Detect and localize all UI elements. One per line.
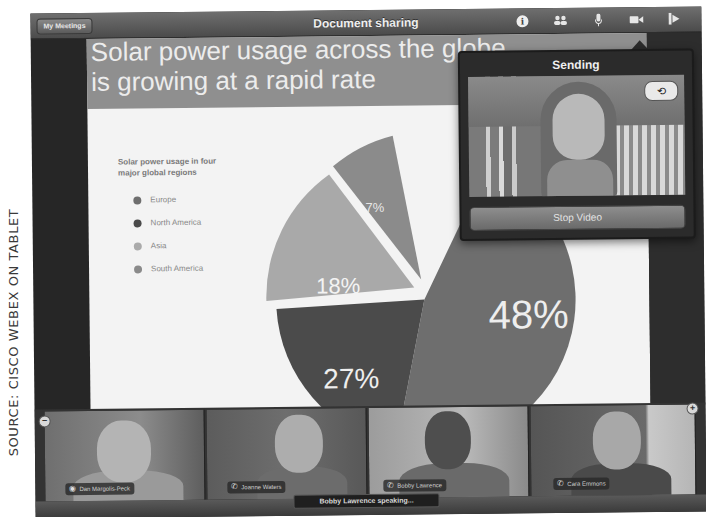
participant-name-label: ✆ Cara Emmons bbox=[553, 477, 609, 490]
microphone-icon bbox=[594, 13, 602, 28]
label-7: 7% bbox=[365, 200, 384, 215]
self-video-preview: ⟲ bbox=[468, 75, 685, 197]
source-caption: SOURCE: CISCO WEBEX ON TABLET bbox=[0, 150, 28, 515]
participant-video-1[interactable]: ◉ Dan Margolis-Peck bbox=[45, 410, 206, 502]
participant-video-2[interactable]: ✆ Joanne Waters bbox=[207, 408, 368, 500]
participant-name-label: ◉ Dan Margolis-Peck bbox=[65, 482, 134, 495]
popover-title: Sending bbox=[460, 57, 692, 75]
phone-icon: ✆ bbox=[231, 481, 238, 493]
phone-icon: ✆ bbox=[387, 480, 394, 492]
legend-dot-icon bbox=[133, 196, 141, 204]
expand-filmstrip-button[interactable]: + bbox=[686, 403, 698, 415]
participant-video-3[interactable]: ✆ Bobby Lawrence bbox=[369, 406, 530, 498]
participant-name-label: ✆ Bobby Lawrence bbox=[383, 479, 446, 492]
legend-dot-icon bbox=[134, 219, 142, 227]
leave-meeting-icon bbox=[668, 13, 680, 27]
switch-camera-icon: ⟲ bbox=[657, 84, 666, 97]
participants-button[interactable] bbox=[541, 12, 579, 30]
switch-camera-button[interactable]: ⟲ bbox=[644, 81, 678, 101]
label-48: 48% bbox=[488, 292, 569, 337]
info-icon: i bbox=[516, 15, 528, 27]
info-button[interactable]: i bbox=[503, 12, 541, 30]
mute-button[interactable] bbox=[579, 11, 617, 29]
stop-video-button[interactable]: Stop Video bbox=[469, 205, 685, 231]
participant-filmstrip: ◉ Dan Margolis-Peck ✆ Joanne Waters bbox=[35, 402, 706, 517]
minus-icon: − bbox=[42, 415, 47, 425]
photo: SOURCE: CISCO WEBEX ON TABLET My Meeting… bbox=[0, 0, 706, 517]
participant-video-4[interactable]: ✆ Cara Emmons bbox=[531, 405, 697, 497]
audio-icon: ◉ bbox=[69, 483, 76, 495]
collapse-filmstrip-button[interactable]: − bbox=[39, 415, 51, 427]
leave-meeting-button[interactable] bbox=[655, 11, 693, 29]
video-camera-icon bbox=[629, 14, 643, 26]
active-speaker-banner: Bobby Lawrence speaking... bbox=[293, 493, 439, 509]
toolbar-icons: i bbox=[503, 11, 693, 31]
plus-icon: + bbox=[690, 403, 695, 413]
self-video-popover: Sending ⟲ Stop Video bbox=[458, 49, 696, 241]
video-button[interactable] bbox=[617, 11, 655, 29]
label-27: 27% bbox=[323, 363, 379, 395]
participants-icon bbox=[553, 15, 567, 27]
legend-dot-icon bbox=[134, 242, 142, 250]
legend-dot-icon bbox=[134, 265, 142, 273]
participant-name-label: ✆ Joanne Waters bbox=[227, 481, 285, 494]
phone-icon: ✆ bbox=[557, 478, 564, 490]
label-18: 18% bbox=[316, 273, 360, 298]
tablet-screen: My Meetings Document sharing i bbox=[30, 7, 706, 517]
